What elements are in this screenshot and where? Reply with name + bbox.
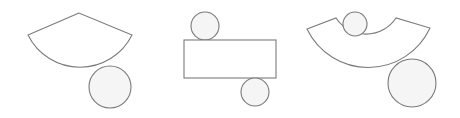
cone-base-circle <box>89 66 131 108</box>
frustum-large-circle <box>388 59 436 107</box>
frustum-net-figure <box>307 12 436 107</box>
cylinder-lateral-rectangle <box>184 40 276 78</box>
diagram-canvas <box>0 0 460 118</box>
frustum-small-circle <box>343 12 367 36</box>
cone-lateral-sector <box>28 13 132 67</box>
cylinder-top-circle <box>191 12 219 40</box>
cylinder-net-figure <box>184 12 276 106</box>
cylinder-bottom-circle <box>241 78 269 106</box>
cone-net-figure <box>28 13 132 108</box>
